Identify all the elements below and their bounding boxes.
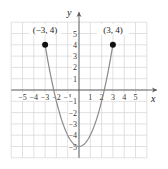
x-tick-label: −3 <box>41 93 50 102</box>
x-tick-label: 5 <box>134 93 138 102</box>
x-axis-label: x <box>150 93 156 104</box>
y-tick-label: −3 <box>68 120 77 129</box>
y-tick-label: 4 <box>73 41 77 50</box>
tick-labels: −5−4−3−2−112345−5−4−3−2−112345 <box>18 30 139 152</box>
parabola-chart: xy −5−4−3−2−112345−5−4−3−2−112345 (−3, 4… <box>0 0 168 169</box>
x-tick-label: 3 <box>111 93 115 102</box>
endpoint-label: (3, 4) <box>103 25 123 35</box>
endpoint-marker <box>110 42 116 48</box>
x-tick-label: −5 <box>18 93 27 102</box>
x-tick-label: 1 <box>88 93 92 102</box>
x-tick-label: −4 <box>30 93 39 102</box>
y-tick-label: 1 <box>73 75 77 84</box>
y-tick-label: −2 <box>68 109 77 118</box>
y-tick-label: 3 <box>73 52 77 61</box>
y-tick-label: 5 <box>73 30 77 39</box>
x-tick-label: 4 <box>122 93 126 102</box>
endpoint-label: (−3, 4) <box>33 25 58 35</box>
endpoint-marker <box>42 42 48 48</box>
y-tick-label: −1 <box>68 97 77 106</box>
y-axis-label: y <box>66 7 72 18</box>
y-tick-label: 2 <box>73 63 77 72</box>
